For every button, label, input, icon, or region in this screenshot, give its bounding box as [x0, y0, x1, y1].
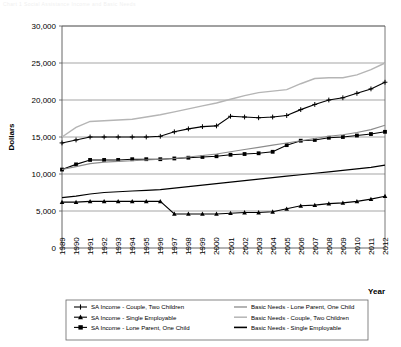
y-tick-label: 5,000	[36, 207, 57, 216]
x-tick-label: 1997	[170, 237, 179, 255]
legend-item-bn-single-employable[interactable]: Basic Needs - Single Employable	[234, 324, 342, 331]
legend-label: Basic Needs - Couple, Two Children	[251, 314, 349, 321]
x-tick-label: 2006	[297, 237, 306, 255]
square-marker	[369, 132, 373, 136]
legend-item-bn-couple-two-children[interactable]: Basic Needs - Couple, Two Children	[234, 314, 349, 321]
x-tick-label: 1992	[100, 237, 109, 255]
legend-item-sa-lone-parent-one-child[interactable]: SA Income - Lone Parent, One Child	[74, 324, 190, 331]
x-axis-ticks: 1989199019911992199319941995199619971998…	[58, 237, 390, 255]
legend-label: Basic Needs - Lone Parent, One Child	[251, 303, 354, 310]
x-tick-label: 2002	[241, 237, 250, 255]
x-tick-label: 2005	[283, 237, 292, 255]
square-marker	[383, 130, 387, 134]
square-marker	[229, 153, 233, 157]
square-marker	[355, 134, 359, 138]
y-tick-label: 30,000	[32, 22, 57, 31]
x-tick-label: 1990	[72, 237, 81, 255]
x-tick-label: 1999	[198, 237, 207, 255]
legend-label: Basic Needs - Single Employable	[251, 324, 342, 331]
square-marker	[102, 158, 106, 162]
x-tick-label: 2011	[367, 237, 376, 255]
square-marker	[243, 152, 247, 156]
square-marker	[341, 135, 345, 139]
y-tick-label: 10,000	[32, 170, 57, 179]
x-tick-label: 1991	[86, 237, 95, 255]
x-tick-label: 2000	[212, 237, 221, 255]
series-1	[60, 194, 388, 216]
series-2	[60, 130, 387, 172]
square-marker	[88, 158, 92, 162]
legend-item-bn-lone-parent-one-child[interactable]: Basic Needs - Lone Parent, One Child	[234, 303, 354, 310]
x-tick-label: 2010	[353, 237, 362, 255]
series-3	[62, 125, 385, 169]
x-tick-label: 2001	[227, 237, 236, 255]
x-axis-title: Year	[368, 287, 385, 296]
chart-canvas: 05,00010,00015,00020,00025,00030,0001989…	[0, 0, 401, 347]
square-marker	[74, 162, 78, 166]
square-marker	[285, 143, 289, 147]
y-tick-label: 25,000	[32, 59, 57, 68]
x-tick-label: 1995	[142, 237, 151, 255]
y-axis-title: Dollars	[7, 123, 16, 151]
square-marker	[215, 154, 219, 158]
x-tick-label: 1993	[114, 237, 123, 255]
y-axis-ticks: 05,00010,00015,00020,00025,00030,000	[32, 22, 62, 253]
series-line	[62, 82, 385, 143]
square-marker	[257, 151, 261, 155]
legend-label: SA Income - Single Employable	[91, 314, 177, 321]
legend-item-sa-couple-two-children[interactable]: SA Income - Couple, Two Children	[74, 303, 184, 310]
x-tick-label: 2004	[269, 237, 278, 255]
y-tick-label: 0	[52, 244, 57, 253]
x-tick-label: 1994	[128, 237, 137, 255]
x-tick-label: 2012	[381, 237, 390, 255]
x-tick-label: 2007	[311, 237, 320, 255]
series-5	[62, 165, 385, 198]
x-tick-label: 1998	[184, 237, 193, 255]
figure-title: Chart 1 Social Assistance Income and Bas…	[3, 1, 136, 7]
legend-label: SA Income - Lone Parent, One Child	[91, 324, 190, 331]
series-line	[62, 165, 385, 198]
square-marker	[271, 150, 275, 154]
x-tick-label: 2009	[339, 237, 348, 255]
x-tick-label: 2003	[255, 237, 264, 255]
series-line	[62, 125, 385, 169]
legend: SA Income - Couple, Two ChildrenSA Incom…	[66, 300, 368, 340]
x-tick-label: 1989	[58, 237, 67, 255]
triangle-marker	[383, 194, 388, 198]
y-tick-label: 20,000	[32, 96, 57, 105]
x-tick-label: 2008	[325, 237, 334, 255]
square-marker	[78, 325, 82, 329]
y-tick-label: 15,000	[32, 133, 57, 142]
chart-figure: Chart 1 Social Assistance Income and Bas…	[0, 0, 401, 347]
x-tick-label: 1996	[156, 237, 165, 255]
legend-label: SA Income - Couple, Two Children	[91, 303, 184, 310]
